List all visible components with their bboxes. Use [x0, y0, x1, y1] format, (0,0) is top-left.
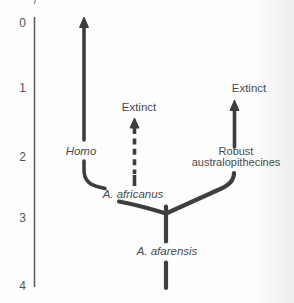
robust-branch — [166, 173, 234, 214]
extinct-label-robust: Extinct — [232, 81, 267, 95]
axis-tick-label-4: 4 — [8, 279, 26, 293]
axis-top-mark — [34, 0, 35, 4]
axis-tick-label-0: 0 — [8, 16, 26, 30]
robust-label-line2: australopithecines — [192, 157, 281, 168]
africanus-extinct-dashed-line — [130, 118, 139, 186]
robust-australopithecines-label: Robust australopithecines — [192, 146, 281, 167]
a-africanus-label: A. africanus — [103, 187, 164, 201]
axis-tick-label-3: 3 — [8, 211, 26, 225]
homo-lineage-line — [80, 17, 106, 189]
homo-africanus-elbow — [84, 161, 105, 189]
robust-label-line1: Robust — [192, 146, 281, 157]
homo-label: Homo — [66, 144, 97, 158]
extinct-label-africanus: Extinct — [122, 100, 157, 114]
robust-extinct-line — [230, 100, 239, 147]
axis-tick-label-1: 1 — [8, 81, 26, 95]
a-afarensis-label: A. afarensis — [137, 244, 198, 258]
dashed-arrowhead-up-icon — [130, 118, 139, 128]
axis-tick-label-2: 2 — [8, 150, 26, 164]
africanus-branch — [119, 202, 166, 214]
phylogeny-diagram: 0 1 2 3 4 Homo Extinct Extinct Robust au… — [0, 0, 294, 303]
